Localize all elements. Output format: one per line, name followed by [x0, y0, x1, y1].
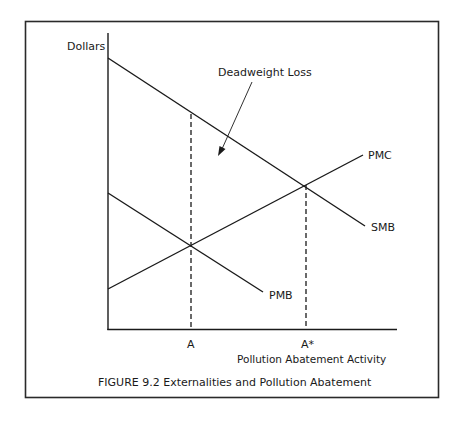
- x-axis-label: Pollution Abatement Activity: [237, 353, 386, 365]
- smb-line: [108, 58, 365, 226]
- figure-caption: FIGURE 9.2 Externalities and Pollution A…: [98, 376, 372, 389]
- smb-label: SMB: [371, 221, 395, 234]
- tick-label-a-star: A*: [301, 338, 315, 351]
- pmb-label: PMB: [269, 289, 293, 302]
- pmc-line: [108, 155, 363, 289]
- pmc-label: PMC: [368, 149, 392, 162]
- deadweight-loss-arrow-shaft: [222, 82, 252, 149]
- tick-label-a: A: [187, 338, 195, 351]
- y-axis-label: Dollars: [67, 40, 106, 53]
- figure-container: Dollars Deadweight Loss PMC SMB PMB A A*…: [0, 0, 463, 421]
- chart-svg: Dollars Deadweight Loss PMC SMB PMB A A*…: [0, 0, 463, 421]
- arrowhead-icon: [218, 146, 226, 156]
- deadweight-loss-label: Deadweight Loss: [218, 66, 312, 79]
